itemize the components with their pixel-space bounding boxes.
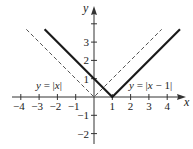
y-tick-label: −1 (77, 109, 89, 121)
labels: x y y = |x| y = |x − 1| (35, 1, 190, 109)
graph-figure: −4−3−2−11234321−1−2 x y y = |x| y = |x −… (0, 0, 193, 149)
y-tick-label: 3 (84, 36, 90, 48)
x-tick-label: −2 (50, 100, 62, 112)
curve-label-abs-x: y = |x| (35, 79, 62, 91)
x-tick-label: 1 (110, 100, 116, 112)
axes (12, 6, 186, 144)
curve-label-eq: = | (41, 79, 55, 91)
x-tick-label: 2 (128, 100, 134, 112)
y-axis-label: y (82, 1, 89, 15)
x-tick-label: 3 (146, 100, 152, 112)
curve-label-end: | (60, 79, 62, 91)
x-axis-label: x (183, 95, 190, 109)
y-tick-label: 2 (84, 54, 90, 66)
curve-label-abs-x-minus-1: y = |x − 1| (128, 79, 172, 91)
y-tick-label: 1 (84, 73, 90, 85)
y-tick-label: −2 (77, 128, 89, 140)
curve-label-end: − 1| (153, 79, 172, 91)
y-axis-arrow-icon (91, 6, 97, 15)
x-tick-label: 4 (164, 100, 170, 112)
x-tick-label: −3 (31, 100, 43, 112)
plot-area: −4−3−2−11234321−1−2 x y y = |x| y = |x −… (0, 0, 193, 149)
curve-label-eq: = | (134, 79, 148, 91)
x-tick-label: −4 (13, 100, 25, 112)
